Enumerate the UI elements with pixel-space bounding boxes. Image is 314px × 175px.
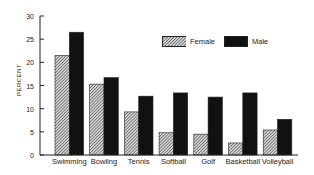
x-tick-swimming: Swimming	[52, 157, 87, 166]
legend-label-male: Male	[252, 37, 268, 46]
x-tick-softball: Softball	[161, 157, 186, 166]
y-tick-0: 0	[18, 152, 34, 159]
bar-male-softball	[173, 93, 187, 155]
y-tick-10: 10	[18, 105, 34, 112]
y-tick-25: 25	[18, 36, 34, 43]
bar-male-basketball	[243, 93, 257, 155]
legend-item-female: Female	[162, 36, 215, 47]
y-axis-label-text: PERCENT	[16, 64, 22, 96]
x-tick-tennis: Tennis	[128, 157, 150, 166]
bars-group	[55, 32, 292, 155]
bar-female-basketball	[229, 143, 243, 155]
bar-female-golf	[194, 134, 208, 155]
bar-male-volleyball	[278, 119, 292, 155]
bar-chart	[0, 0, 314, 175]
x-tick-golf: Golf	[201, 157, 215, 166]
bar-male-tennis	[139, 96, 153, 155]
legend-label-female: Female	[190, 37, 215, 46]
y-axis-label: PERCENT	[12, 60, 26, 100]
bar-male-golf	[208, 97, 222, 155]
bar-male-swimming	[69, 32, 83, 155]
bar-female-volleyball	[263, 130, 277, 155]
bar-female-tennis	[124, 112, 138, 155]
bar-female-bowling	[90, 84, 104, 155]
bar-female-softball	[159, 133, 173, 155]
y-tick-15: 15	[18, 82, 34, 89]
bar-male-bowling	[104, 78, 118, 155]
x-tick-volleyball: Volleyball	[262, 157, 294, 166]
y-tick-5: 5	[18, 128, 34, 135]
x-tick-bowling: Bowling	[91, 157, 117, 166]
y-tick-20: 20	[18, 59, 34, 66]
legend-swatch-male	[224, 36, 248, 47]
y-tick-30: 30	[18, 13, 34, 20]
legend-swatch-female	[162, 36, 186, 47]
legend-item-male: Male	[224, 36, 268, 47]
x-tick-basketball: Basketball	[225, 157, 260, 166]
bar-female-swimming	[55, 55, 69, 155]
